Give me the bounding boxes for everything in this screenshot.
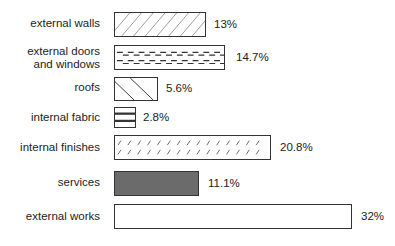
diagonal-hatch-pattern (115, 13, 205, 36)
dashed-lines-pattern (115, 46, 224, 69)
category-label-internal-fabric: internal fabric (31, 111, 100, 124)
label-line-1: external doors (27, 45, 100, 58)
label-line-2: and windows (27, 58, 100, 71)
short-slash-pattern (115, 136, 270, 159)
bar-external-works (114, 204, 352, 229)
value-label-internal-finishes: 20.8% (280, 141, 313, 154)
category-label-internal-finishes: internal finishes (20, 141, 100, 154)
bar-external-doors-windows (114, 45, 225, 70)
bar-internal-fabric (114, 107, 136, 128)
value-label-services: 11.1% (208, 177, 240, 190)
value-label-external-walls: 13% (214, 18, 237, 31)
category-label-external-works: external works (26, 210, 100, 223)
value-label-external-doors-windows: 14.7% (236, 51, 269, 64)
value-label-external-works: 32% (361, 210, 384, 223)
bar-external-walls (114, 12, 206, 37)
category-label-external-walls: external walls (30, 17, 100, 30)
bar-roofs (114, 77, 158, 101)
value-label-internal-fabric: 2.8% (143, 111, 169, 124)
wide-diagonal-pattern (115, 78, 157, 100)
category-label-services: services (58, 176, 100, 189)
bar-services (114, 171, 199, 196)
value-label-roofs: 5.6% (166, 82, 192, 95)
bar-internal-finishes (114, 135, 271, 160)
category-label-roofs: roofs (74, 81, 100, 94)
category-label-external-doors-windows: external doors and windows (27, 45, 100, 71)
horizontal-stripes-pattern (115, 108, 135, 127)
